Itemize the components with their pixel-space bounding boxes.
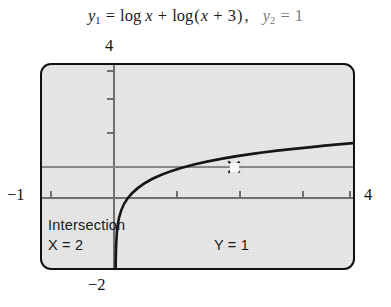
y2-subscript: 2 [270,15,275,26]
y2-expression: y2 = 1 [263,6,303,25]
cursor-center-box [230,163,239,172]
equation-title: y1 = log x + log(x + 3), y2 = 1 [0,6,391,26]
log-function-1: log [120,6,141,25]
y1-log-curve [42,65,355,270]
plus-operator: + [157,6,168,25]
log-arg-1: x [145,6,152,25]
comma-separator: , [243,6,249,25]
readout-y-value: Y = 1 [214,237,249,253]
y2-equals: = [279,6,290,25]
y2-variable: y [263,6,270,25]
y1-subscript: 1 [95,15,100,26]
log-arg-2: x [201,6,208,25]
inner-plus-operator: + [212,6,223,25]
calculator-graph-figure: y1 = log x + log(x + 3), y2 = 1 4 −1 4 −… [0,0,391,307]
y1-equals: = [105,6,116,25]
window-ymin-label: −2 [88,275,106,295]
y2-value: 1 [295,6,303,25]
log-function-2: log [172,6,193,25]
intersection-cursor-icon [225,158,243,176]
readout-title: Intersection [48,217,125,233]
readout-x-value: X = 2 [48,237,83,253]
open-paren: ( [193,6,201,25]
window-ymax-label: 4 [105,36,113,56]
window-xmin-label: −1 [7,185,25,205]
window-xmax-label: 4 [364,185,372,205]
inner-constant: 3 [228,6,236,25]
calculator-screen[interactable]: Intersection X = 2 Y = 1 [40,63,355,270]
